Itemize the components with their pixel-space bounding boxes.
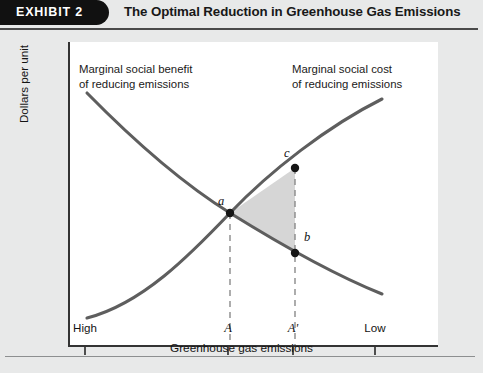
header-divider (0, 28, 478, 30)
y-axis-label: Dollars per unit (17, 0, 30, 123)
marginal-social-cost-curve (87, 99, 382, 318)
footer-divider (5, 356, 475, 357)
point-a (226, 209, 234, 217)
exhibit-header: EXHIBIT 2 The Optimal Reduction in Green… (0, 0, 483, 30)
marginal-social-benefit-label: Marginal social benefit of reducing emis… (79, 62, 192, 91)
msc-label-line1: Marginal social cost (292, 63, 392, 75)
chart-figure: Dollars per unit Marginal social benefit… (0, 31, 483, 355)
msc-label-line2: of reducing emissions (292, 78, 402, 90)
point-label-b: b (304, 230, 310, 245)
point-label-c: c (284, 146, 290, 161)
x-tick-low: Low (350, 321, 400, 334)
x-tick-A-prime: A' (268, 321, 318, 336)
x-axis-label: Greenhouse gas emissions (0, 341, 483, 355)
exhibit-title: The Optimal Reduction in Greenhouse Gas … (124, 4, 460, 19)
point-c (291, 164, 299, 172)
msb-label-line2: of reducing emissions (79, 78, 189, 90)
plot-area: Marginal social benefit of reducing emis… (68, 42, 438, 347)
msb-label-line1: Marginal social benefit (79, 63, 192, 75)
marginal-social-cost-label: Marginal social cost of reducing emissio… (292, 62, 402, 91)
x-tick-A: A (203, 321, 253, 336)
x-tick-high: High (60, 321, 110, 334)
point-label-a: a (218, 194, 224, 209)
point-b (291, 249, 299, 257)
